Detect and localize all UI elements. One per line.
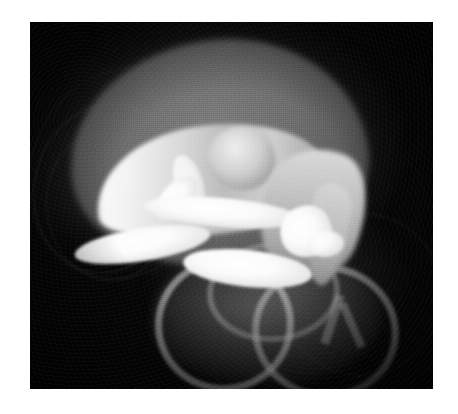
scan-image-plate[interactable]	[30, 22, 433, 389]
figure-root	[0, 0, 458, 414]
